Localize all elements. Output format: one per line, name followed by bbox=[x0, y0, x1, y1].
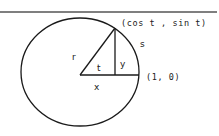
arc-length-label: s bbox=[140, 39, 145, 49]
opposite-side-label: y bbox=[120, 59, 126, 69]
unit-circle bbox=[21, 18, 139, 126]
radius-label: r bbox=[72, 52, 76, 62]
angle-label: t bbox=[97, 63, 101, 73]
point-on-circle-label: (cos t , sin t) bbox=[121, 18, 207, 28]
adjacent-side-label: x bbox=[94, 82, 100, 92]
unit-circle-diagram: (cos t , sin t) s r t y (1, 0) x bbox=[0, 0, 219, 136]
reference-point-label: (1, 0) bbox=[146, 72, 180, 82]
